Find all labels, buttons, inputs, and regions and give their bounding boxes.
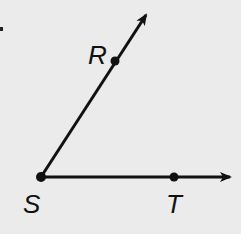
point-t (170, 173, 179, 182)
point-r (111, 57, 120, 66)
label-t: T (166, 189, 184, 219)
label-r: R (88, 40, 107, 70)
angle-diagram: R T S (0, 0, 241, 234)
label-s: S (23, 189, 41, 219)
stray-mark (0, 27, 3, 31)
point-s (36, 172, 46, 182)
